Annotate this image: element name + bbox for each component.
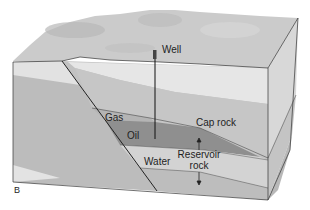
well-derrick-icon xyxy=(153,50,157,59)
reservoir-rock-label: Reservoir rock xyxy=(177,150,221,171)
water-label: Water xyxy=(144,157,170,167)
reservoir-rock-label-line2: rock xyxy=(177,161,221,171)
oil-label: Oil xyxy=(127,131,139,141)
gas-label: Gas xyxy=(105,113,123,123)
panel-label: B xyxy=(14,186,20,195)
reservoir-rock-label-line1: Reservoir xyxy=(177,150,221,160)
terrain-shading xyxy=(45,22,105,38)
cap-rock-label: Cap rock xyxy=(196,118,236,128)
terrain-shading xyxy=(105,43,155,53)
well-label: Well xyxy=(162,45,181,55)
terrain-shading xyxy=(138,13,182,27)
geologic-block-diagram xyxy=(0,0,310,210)
terrain-shading xyxy=(200,22,260,38)
